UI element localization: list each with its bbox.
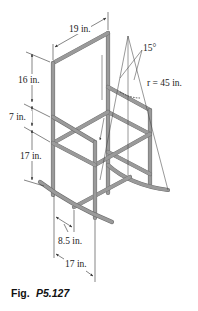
- far-side-frame: [108, 33, 168, 193]
- angle-label: 15°: [143, 43, 157, 53]
- dim-19-label: 19 in.: [69, 24, 91, 34]
- chair-frame: [40, 33, 168, 222]
- dim-7-label: 7 in.: [9, 112, 26, 122]
- dim-17-height-label: 17 in.: [20, 151, 42, 161]
- dim-17-depth-label: 17 in.: [65, 259, 87, 269]
- caption-prefix: Fig.: [11, 287, 30, 299]
- dim-8-5-label: 8.5 in.: [58, 236, 82, 246]
- dim-vertical-stack: 16 in. 7 in. 17 in.: [8, 52, 50, 186]
- figure-caption: Fig. P5.127: [11, 287, 70, 299]
- caption-number: P5.127: [36, 287, 70, 299]
- dim-16-label: 16 in.: [18, 75, 40, 85]
- rocking-chair-diagram: 15° r = 45 in. 19 in. 16 in. 7 in. 17 in…: [0, 0, 198, 311]
- radius-label: r = 45 in.: [147, 78, 182, 88]
